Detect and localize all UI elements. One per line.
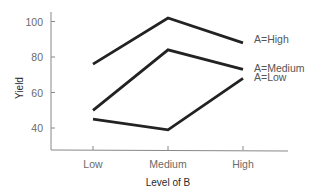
x-axis-line (51, 150, 288, 151)
y-tick-label: 100 (25, 16, 43, 28)
series-labels: A=HighA=MediumA=Low (254, 33, 305, 83)
x-axis-title: Level of B (146, 177, 191, 188)
x-axis: LowMediumHigh (51, 146, 288, 170)
x-tick-label: Medium (149, 158, 187, 170)
series-label: A=Low (254, 71, 287, 83)
interaction-line-chart: 406080100 LowMediumHigh A=HighA=MediumA=… (0, 0, 323, 195)
y-tick-label: 40 (31, 122, 43, 134)
series-label: A=High (254, 33, 289, 45)
series-group (93, 18, 243, 130)
series-line-a-high (93, 18, 243, 64)
x-tick-label: High (232, 158, 254, 170)
x-tick-label: Low (83, 158, 103, 170)
y-axis-title: Yield (14, 77, 25, 99)
y-axis: 406080100 (25, 12, 55, 150)
series-line-a-medium (93, 50, 243, 110)
series-line-a-low (93, 78, 243, 130)
y-tick-label: 80 (31, 51, 43, 63)
y-tick-label: 60 (31, 87, 43, 99)
